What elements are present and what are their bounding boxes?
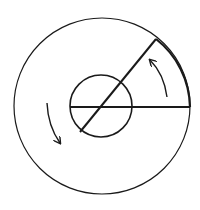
diagonal-radius-line: [80, 39, 156, 132]
sector-arc: [156, 39, 190, 107]
rotation-arrow-right-icon: [150, 60, 167, 97]
circle-sector-diagram: [0, 0, 200, 210]
rotation-arrow-left-icon: [47, 103, 60, 143]
